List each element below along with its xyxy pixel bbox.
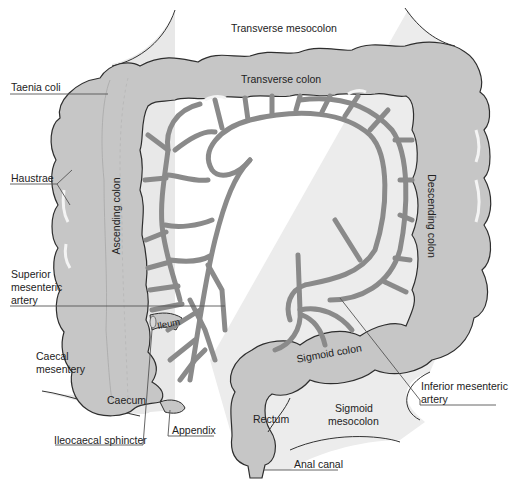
label-haustrae: Haustrae bbox=[11, 172, 54, 184]
label-superior-mesenteric-artery-line2: mesenteric bbox=[11, 281, 62, 293]
label-transverse-mesocolon: Transverse mesocolon bbox=[231, 22, 337, 34]
colon-diagram: Transverse mesocolon Transverse colon Ta… bbox=[0, 0, 510, 492]
label-ascending-colon: Ascending colon bbox=[110, 177, 122, 254]
ileocaecal-valve bbox=[150, 316, 156, 328]
label-superior-mesenteric-artery-line3: artery bbox=[11, 294, 38, 306]
label-anal-canal: Anal canal bbox=[294, 458, 343, 470]
label-inferior-mesenteric-artery-line2: artery bbox=[421, 393, 448, 405]
label-sigmoid-mesocolon-line1: Sigmoid bbox=[335, 402, 373, 414]
label-taenia-coli: Taenia coli bbox=[11, 81, 61, 93]
label-sigmoid-mesocolon-line2: mesocolon bbox=[328, 415, 379, 427]
label-superior-mesenteric-artery-line1: Superior bbox=[11, 268, 51, 280]
label-descending-colon: Descending colon bbox=[426, 174, 438, 257]
label-rectum: Rectum bbox=[253, 413, 289, 425]
label-caecal-mesentery-line2: mesentery bbox=[36, 363, 85, 375]
label-appendix: Appendix bbox=[172, 424, 216, 436]
appendix bbox=[160, 400, 185, 413]
label-transverse-colon: Transverse colon bbox=[241, 73, 321, 85]
label-ileocaecal-sphincter: Ileocaecal sphincter bbox=[54, 434, 147, 446]
label-inferior-mesenteric-artery-line1: Inferior mesenteric bbox=[421, 380, 508, 392]
label-caecal-mesentery-line1: Caecal bbox=[36, 350, 69, 362]
label-caecum: Caecum bbox=[107, 394, 146, 406]
